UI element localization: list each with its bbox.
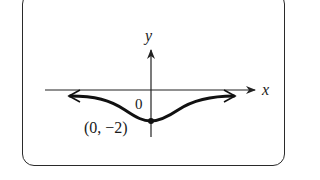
- x-axis-label: x: [262, 82, 269, 98]
- y-axis-label: y: [145, 28, 152, 44]
- point-label: (0, −2): [84, 120, 128, 136]
- point-marker: [148, 118, 154, 124]
- function-curve: [70, 96, 234, 121]
- origin-label: 0: [135, 97, 143, 112]
